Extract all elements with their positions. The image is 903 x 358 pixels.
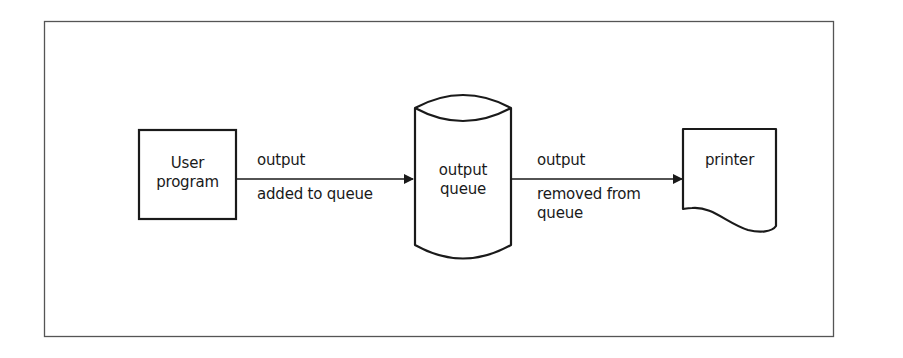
printer-label-line-1: printer (683, 151, 776, 170)
output-queue-label-line-2: queue (415, 180, 511, 199)
printer-document-shape (683, 129, 776, 232)
output-queue-label-line-1: output (415, 161, 511, 180)
edge-2-label-below: removed from queue (537, 185, 641, 223)
user-program-label-line-2: program (139, 173, 236, 192)
user-program-label-line-1: User (139, 154, 236, 173)
edge-2-label-below-line-1: removed from (537, 185, 641, 204)
printer-label: printer (683, 151, 776, 170)
edge-2-label-below-line-2: queue (537, 204, 641, 223)
edge-1-label-below: added to queue (257, 185, 373, 204)
output-queue-label: output queue (415, 161, 511, 199)
edge-2-label-above: output (537, 151, 585, 170)
user-program-label: User program (139, 154, 236, 192)
print-queue-diagram: User program output queue printer output… (0, 0, 903, 358)
edge-1-label-above: output (257, 151, 305, 170)
